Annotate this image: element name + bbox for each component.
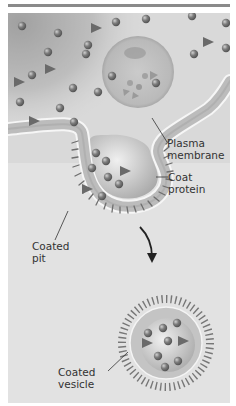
endocytosis-diagram	[8, 13, 230, 403]
coated-vesicle-label: Coated vesicle	[58, 366, 95, 390]
coated-pit-label: Coated pit	[32, 240, 69, 264]
top-rule	[8, 4, 230, 7]
coat-protein-label: Coat protein	[168, 171, 230, 195]
diagram-frame: Plasma membrane Coat protein Coated pit …	[8, 13, 230, 403]
plasma-membrane-label: Plasma membrane	[167, 137, 224, 161]
